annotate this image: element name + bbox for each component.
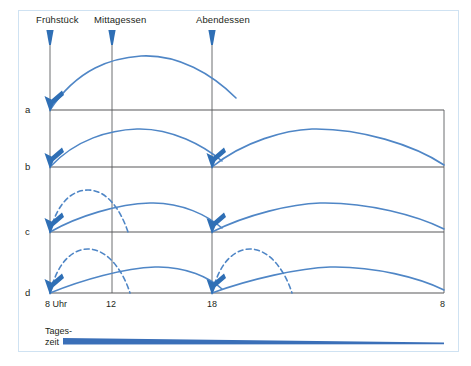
lunch-marker-icon	[108, 30, 115, 45]
curve-c-dinner-solid	[212, 203, 444, 232]
onset-arrow-b-breakfast	[45, 148, 65, 170]
time-tick-8uhr: 8 Uhr	[45, 299, 67, 309]
curve-b-dinner	[212, 129, 444, 167]
row-label-d: d	[25, 287, 30, 298]
curve-c-breakfast-solid	[50, 203, 222, 232]
plot-canvas	[0, 0, 471, 366]
meal-label-lunch: Mittagessen	[94, 14, 146, 25]
curve-d-dinner-solid	[212, 267, 444, 293]
curve-d-breakfast-solid	[50, 267, 222, 293]
row-label-b: b	[25, 161, 30, 172]
time-tick-18: 18	[207, 299, 217, 309]
meal-label-breakfast: Frühstück	[36, 14, 79, 25]
baselines	[50, 110, 444, 293]
onset-arrowheads	[45, 91, 227, 296]
curve-b-breakfast	[50, 129, 222, 167]
daytime-bar	[63, 338, 444, 345]
curve-a-breakfast	[50, 56, 236, 110]
figure-root: Frühstück Mittagessen Abendessen a b c d…	[0, 0, 471, 366]
time-tick-8: 8	[440, 299, 445, 309]
daytime-caption-line1: Tages-	[45, 326, 72, 337]
meal-label-dinner: Abendessen	[196, 14, 250, 25]
breakfast-marker-icon	[46, 30, 53, 45]
daytime-caption-line2: zeit	[45, 337, 59, 348]
row-label-c: c	[25, 226, 30, 237]
meal-marker-arrows	[46, 30, 215, 45]
time-tick-12: 12	[106, 299, 116, 309]
vertical-rules	[50, 43, 444, 293]
curves	[50, 56, 444, 293]
row-label-a: a	[25, 104, 30, 115]
onset-arrow-a-breakfast	[45, 91, 65, 113]
onset-arrow-c-breakfast	[45, 213, 65, 235]
dinner-marker-icon	[208, 30, 215, 45]
curve-d-dinner-dashed	[212, 249, 292, 293]
curve-d-breakfast-dashed	[50, 249, 130, 293]
